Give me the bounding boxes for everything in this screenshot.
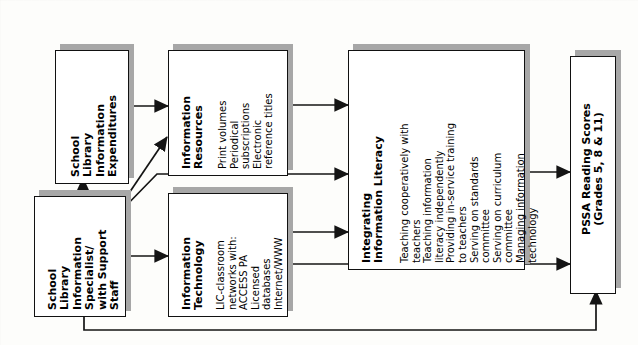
- list-item: teachers: [411, 51, 423, 263]
- list-item: Print volumes: [217, 51, 229, 169]
- node-literacy-title: Integrating Information Literacy: [361, 51, 386, 263]
- list-item: databases: [261, 194, 273, 310]
- list-item: committee: [480, 51, 492, 263]
- text-line: Expenditures: [107, 51, 119, 177]
- list-item: Teaching cooperatively with: [399, 51, 411, 263]
- node-technology-title: Information Technology: [181, 194, 206, 310]
- node-scores[interactable]: PSSA Reading Scores (Grades 5, 8 & 11): [570, 56, 616, 294]
- text-line: Technology: [193, 194, 205, 310]
- node-literacy[interactable]: Integrating Information Literacy Teachin…: [348, 50, 525, 270]
- list-item: Licensed: [250, 194, 262, 310]
- text-line: Library: [82, 51, 94, 177]
- node-literacy-items: Teaching cooperatively with teachers Tea…: [399, 51, 538, 263]
- diagram-canvas: School Library Information Expenditures …: [0, 0, 638, 345]
- node-scores-title: PSSA Reading Scores (Grades 5, 8 & 11): [581, 57, 606, 281]
- list-item: Electronic: [252, 51, 264, 169]
- node-specialist[interactable]: School Library Information Specialist/ w…: [34, 196, 126, 317]
- list-item: Internet/WWW: [273, 194, 285, 310]
- node-specialist-title: School Library Information Specialist/ w…: [47, 197, 122, 310]
- node-resources-items: Print volumes Periodical subscriptions E…: [217, 51, 275, 169]
- node-technology-items: LIC-classroom networks with: ACCESS PA L…: [215, 194, 285, 310]
- list-item: Teaching information: [422, 51, 434, 263]
- text-line: Information Literacy: [373, 51, 385, 263]
- list-item: literacy independently: [434, 51, 446, 263]
- list-item: Providing in-service training: [445, 51, 457, 263]
- node-resources[interactable]: Information Resources Print volumes Peri…: [168, 50, 288, 176]
- node-technology[interactable]: Information Technology LIC-classroom net…: [168, 193, 288, 317]
- text-line: (Grades 5, 8 & 11): [593, 57, 605, 281]
- text-line: Library: [59, 197, 71, 310]
- list-item: committee: [503, 51, 515, 263]
- list-item: networks with:: [227, 194, 239, 310]
- node-expenditures-title: School Library Information Expenditures: [70, 51, 120, 177]
- text-line: Specialist/: [84, 197, 96, 310]
- list-item: reference titles: [263, 51, 275, 169]
- list-item: technology: [527, 51, 539, 263]
- node-expenditures[interactable]: School Library Information Expenditures: [55, 50, 129, 184]
- list-item: subscriptions: [240, 51, 252, 169]
- list-item: Serving on curriculum: [492, 51, 504, 263]
- list-item: Periodical: [229, 51, 241, 169]
- text-line: Staff: [109, 197, 121, 310]
- edge-specialist-scores: [84, 291, 596, 330]
- node-resources-title: Information Resources: [181, 51, 206, 169]
- list-item: LIC-classroom: [215, 194, 227, 310]
- list-item: to teachers: [457, 51, 469, 263]
- list-item: Serving on standards: [469, 51, 481, 263]
- text-line: Resources: [193, 51, 205, 169]
- list-item: Managing information: [515, 51, 527, 263]
- list-item: ACCESS PA: [238, 194, 250, 310]
